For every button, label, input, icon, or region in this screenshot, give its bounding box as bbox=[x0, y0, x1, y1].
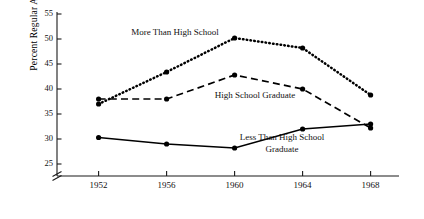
y-tick-label: 25 bbox=[45, 158, 54, 168]
data-point-marker bbox=[300, 45, 305, 50]
x-axis: 19521956196019641968 bbox=[57, 171, 399, 190]
line-chart-plot: 25303540455055 19521956196019641968 More… bbox=[0, 0, 424, 219]
x-tick-label: 1952 bbox=[90, 180, 108, 190]
data-point-marker bbox=[368, 121, 373, 126]
y-axis: 25303540455055 bbox=[45, 8, 62, 176]
y-tick-label: 40 bbox=[45, 83, 54, 93]
series-line bbox=[99, 124, 371, 148]
y-tick-label: 55 bbox=[45, 8, 54, 18]
data-point-marker bbox=[232, 145, 237, 150]
chart-container: Percent Regular Attendance 2530354045505… bbox=[0, 0, 424, 219]
x-tick-label: 1968 bbox=[362, 180, 381, 190]
series-label-less-than-hs-line1: Less Than High School bbox=[240, 132, 325, 142]
x-tick-label: 1964 bbox=[294, 180, 313, 190]
y-tick-label: 45 bbox=[45, 58, 54, 68]
y-tick-label: 30 bbox=[45, 133, 54, 143]
data-point-marker bbox=[96, 101, 101, 106]
series-high-school-graduate bbox=[96, 72, 373, 130]
data-point-marker bbox=[164, 96, 169, 101]
data-point-marker bbox=[232, 35, 237, 40]
data-point-marker bbox=[232, 72, 237, 77]
series-less-than-high-school-graduate bbox=[96, 121, 373, 150]
series-label-more-than-hs: More Than High School bbox=[131, 27, 219, 37]
x-tick-label: 1960 bbox=[226, 180, 245, 190]
data-point-marker bbox=[164, 69, 169, 74]
data-point-marker bbox=[368, 92, 373, 97]
x-tick-label: 1956 bbox=[158, 180, 177, 190]
data-point-marker bbox=[300, 86, 305, 91]
data-point-marker bbox=[300, 126, 305, 131]
data-point-marker bbox=[96, 135, 101, 140]
series-label-hs-grad: High School Graduate bbox=[215, 90, 295, 100]
y-tick-label: 50 bbox=[45, 33, 54, 43]
data-point-marker bbox=[164, 141, 169, 146]
series-label-less-than-hs-line2: Graduate bbox=[266, 144, 299, 154]
data-point-marker bbox=[96, 96, 101, 101]
y-tick-label: 35 bbox=[45, 108, 54, 118]
series-line bbox=[99, 75, 371, 128]
